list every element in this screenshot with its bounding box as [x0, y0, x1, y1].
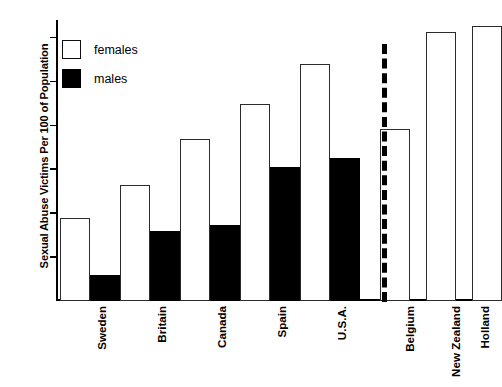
- legend-item-females: females: [62, 40, 138, 59]
- bar-male-u-s-a-: [330, 158, 360, 301]
- y-axis-title: Sexual Abuse Victims Per 100 of Populati…: [38, 16, 50, 296]
- open-square-icon: [62, 40, 81, 59]
- y-tick-mark: [50, 168, 58, 170]
- legend-label-females: females: [94, 43, 138, 57]
- y-tick-mark: [50, 256, 58, 258]
- bar-female-britain: [120, 185, 150, 301]
- bar-male-canada: [210, 225, 240, 301]
- bar-female-u-s-a-: [300, 64, 330, 301]
- x-axis-label-new-zealand: New Zealand: [449, 306, 462, 377]
- bar-female-new-zealand: [426, 32, 456, 301]
- x-axis-label-belgium: Belgium: [403, 306, 416, 352]
- bar-female-sweden: [60, 218, 90, 301]
- legend-label-males: males: [94, 72, 127, 86]
- x-axis-label-canada: Canada: [215, 306, 228, 348]
- y-tick-mark: [50, 212, 58, 214]
- y-tick-mark: [50, 37, 58, 39]
- y-tick-mark: [50, 81, 58, 83]
- bar-female-holland: [472, 26, 502, 301]
- dashed-divider: [382, 44, 387, 302]
- bar-male-sweden: [90, 275, 120, 301]
- filled-square-icon: [62, 69, 81, 88]
- bar-female-spain: [240, 104, 270, 301]
- bar-male-britain: [150, 231, 180, 301]
- x-axis-label-spain: Spain: [275, 306, 288, 338]
- x-axis-label-holland: Holland: [478, 306, 491, 349]
- bar-male-spain: [270, 167, 300, 301]
- x-axis-label-britain: Britain: [155, 306, 168, 343]
- x-axis-label-sweden: Sweden: [95, 306, 108, 350]
- x-axis-label-u-s-a-: U.S.A.: [335, 306, 348, 340]
- y-tick-mark: [50, 125, 58, 127]
- legend: females males: [62, 40, 138, 98]
- legend-item-males: males: [62, 69, 138, 88]
- bar-female-canada: [180, 139, 210, 301]
